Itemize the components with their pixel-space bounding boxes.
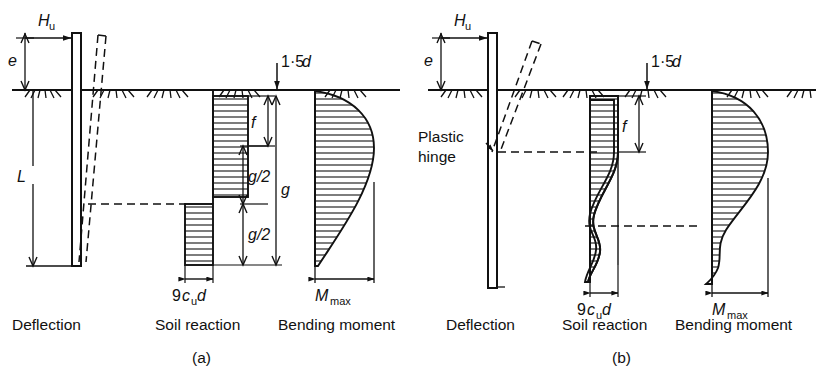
- top-gap-label-b: 1·5: [651, 53, 674, 70]
- column-label-bending-moment-a: Bending moment: [278, 316, 396, 333]
- eccentricity-label-b: e: [424, 52, 433, 69]
- panel-caption-b: (b): [612, 349, 631, 366]
- figure-root: H u e L 1·5 d f: [0, 0, 826, 376]
- pile-length-label-a: L: [17, 168, 26, 185]
- deflection-column-a: H u e L: [8, 12, 186, 266]
- deflection-column-b: H u e Plastic hinge: [418, 12, 600, 288]
- load-label-sub-b: u: [465, 20, 471, 32]
- load-label-sub-a: u: [49, 20, 55, 32]
- panel-b: H u e Plastic hinge 1·5 d f: [418, 12, 816, 366]
- top-gap-label-a: 1·5: [281, 53, 304, 70]
- pressure-label-d-a: d: [197, 287, 207, 304]
- column-label-deflection-b: Deflection: [446, 316, 515, 333]
- column-label-soil-reaction-a: Soil reaction: [155, 316, 240, 333]
- deflected-shape-a: [79, 35, 106, 262]
- top-gap-label-d-b: d: [672, 53, 682, 70]
- panel-caption-a: (a): [192, 349, 211, 366]
- pile-lateral-resistance-diagram: H u e L 1·5 d f: [0, 0, 826, 376]
- plastic-hinge-label-line1-b: Plastic: [418, 128, 464, 145]
- g-half-lower-label-a: g/2: [248, 226, 270, 243]
- column-label-deflection-a: Deflection: [12, 316, 81, 333]
- length-label-gap-a: [30, 166, 37, 184]
- deflected-shape-b: [492, 41, 541, 152]
- soil-reaction-column-b: 1·5 d f 9 c u d: [577, 53, 700, 321]
- plastic-hinge-label-line2-b: hinge: [418, 148, 456, 165]
- bending-moment-column-a: M max: [315, 90, 374, 307]
- bending-moment-column-b: M max: [706, 90, 768, 321]
- g-label-a: g: [281, 181, 290, 198]
- column-label-soil-reaction-b: Soil reaction: [562, 316, 647, 333]
- soil-reaction-profile-b: [588, 96, 618, 282]
- pile-a: [72, 33, 81, 266]
- pressure-label-9-a: 9: [172, 287, 181, 304]
- bending-moment-profile-b: [706, 91, 768, 284]
- column-label-bending-moment-b: Bending moment: [675, 316, 793, 333]
- f-label-b: f: [622, 118, 628, 135]
- pressure-label-c-a: c: [182, 287, 190, 304]
- mmax-label-sub-a: max: [330, 295, 351, 307]
- f-label-a: f: [251, 114, 257, 131]
- g-half-upper-label-a: g/2: [248, 168, 270, 185]
- pile-b: [488, 33, 497, 288]
- soil-reaction-lower-block-a: [185, 204, 213, 265]
- eccentricity-label-a: e: [8, 52, 17, 69]
- top-gap-label-d-a: d: [302, 53, 312, 70]
- mmax-label-a: M: [315, 287, 329, 304]
- bending-moment-profile-a: [315, 91, 374, 266]
- panel-a: H u e L 1·5 d f: [8, 12, 400, 366]
